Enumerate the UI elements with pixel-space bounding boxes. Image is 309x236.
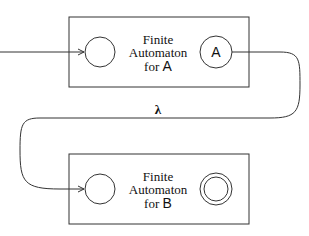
automaton-b-accept-state-outer [200, 173, 232, 205]
automaton-a-box: A Finite Automaton for A [69, 17, 249, 87]
lambda-label: λ [155, 102, 162, 117]
box-a-line2: Automaton [129, 45, 188, 60]
box-b-line3: for B [144, 195, 172, 211]
automaton-b-start-state [85, 174, 115, 204]
automaton-a-start-state [85, 37, 115, 67]
box-b-line2: Automaton [129, 182, 188, 197]
box-a-line3: for A [144, 58, 172, 74]
automata-concatenation-diagram: A Finite Automaton for A λ Finite Automa… [0, 0, 309, 236]
final-state-label: A [211, 44, 221, 60]
automaton-b-accept-state-inner [204, 177, 228, 201]
automaton-b-box: Finite Automaton for B [69, 154, 249, 224]
